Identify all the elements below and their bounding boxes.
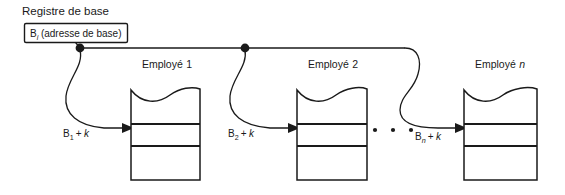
branch-curve-3 — [400, 48, 455, 128]
record-caption-2: Employé2 — [308, 58, 358, 70]
branch-curve-1 — [66, 50, 122, 128]
branch-curve-2 — [230, 50, 288, 128]
record-offset-subscript-n: n — [422, 136, 426, 145]
records-ellipsis — [373, 128, 413, 132]
base-register-addressing-diagram: Registre de base Bi(adresse de base) Emp… — [0, 0, 565, 195]
record-offset-operator-2: + — [241, 128, 247, 139]
record-caption-index-n: n — [519, 58, 525, 70]
ellipsis-dot-3 — [409, 128, 413, 132]
record-box-2 — [297, 88, 367, 180]
record-offset-label-2: B2+k — [228, 128, 255, 142]
record-offset-term-2: k — [249, 128, 255, 139]
record-caption-prefix-1: Employé — [142, 58, 183, 70]
record-offset-label-1: B1+k — [63, 128, 90, 142]
record-box-1 — [131, 88, 200, 180]
record-caption-index-2: 2 — [352, 58, 358, 70]
record-offset-operator-n: + — [428, 131, 434, 142]
record-caption-index-1: 1 — [186, 58, 192, 70]
record-offset-subscript-1: 1 — [70, 133, 74, 142]
record-offset-label-n: Bn+k — [415, 131, 442, 145]
diagram-canvas: Registre de base Bi(adresse de base) Emp… — [0, 0, 565, 195]
record-caption-n: Employén — [475, 58, 525, 70]
record-caption-prefix-2: Employé — [308, 58, 349, 70]
ellipsis-dot-1 — [373, 128, 377, 132]
record-caption-prefix-n: Employé — [475, 58, 516, 70]
record-offset-subscript-2: 2 — [235, 133, 239, 142]
record-offset-term-1: k — [84, 128, 90, 139]
record-box-n — [464, 88, 537, 180]
record-offset-term-n: k — [436, 131, 442, 142]
record-offset-operator-1: + — [76, 128, 82, 139]
page-title: Registre de base — [22, 5, 109, 17]
base-register-description: (adresse de base) — [41, 28, 122, 39]
record-caption-1: Employé1 — [142, 58, 192, 70]
ellipsis-dot-2 — [391, 128, 395, 132]
